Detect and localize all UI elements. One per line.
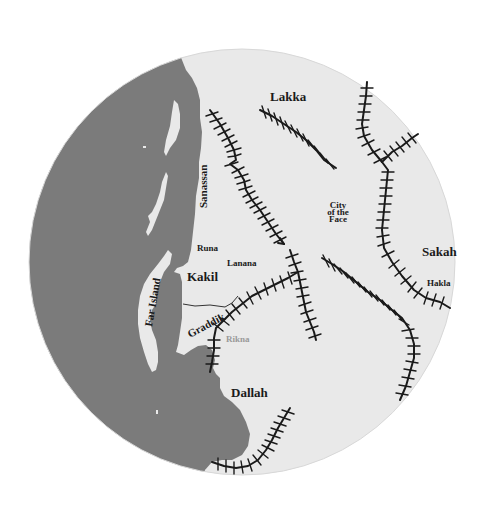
label-dallah: Dallah bbox=[231, 385, 269, 400]
label-kakil: Kakil bbox=[187, 269, 218, 284]
label-runa: Runa bbox=[197, 243, 219, 253]
label-sakah: Sakah bbox=[422, 244, 457, 259]
islet bbox=[143, 146, 146, 148]
label-hakla: Hakla bbox=[427, 278, 451, 288]
label-sanassan: Sanassan bbox=[197, 165, 209, 208]
label-city-line3: Face bbox=[329, 214, 347, 224]
label-lanana: Lanana bbox=[227, 258, 257, 268]
circular-map: Lakka Sanassan City of the Face Sakah Ha… bbox=[0, 0, 481, 507]
islet bbox=[156, 410, 158, 414]
map-container: Lakka Sanassan City of the Face Sakah Ha… bbox=[0, 0, 481, 507]
label-lakka: Lakka bbox=[270, 89, 307, 104]
label-rikna: Rikna bbox=[226, 334, 250, 344]
